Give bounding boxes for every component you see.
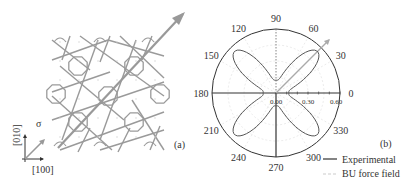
lattice-site [97, 79, 98, 80]
lattice-site [154, 136, 155, 137]
lattice-site [135, 98, 136, 99]
lattice-site [78, 98, 79, 99]
lattice-bond [52, 40, 90, 70]
lattice-site [78, 79, 79, 80]
lattice-site [135, 136, 136, 137]
figure: [100] [010] σ (a) 0306090120150180210240… [0, 0, 412, 186]
angular-tick-label: 60 [308, 23, 318, 34]
angular-tick-label: 330 [333, 125, 348, 136]
panel-b-polar-chart: 03060901201501802102402703003300.000.300… [194, 13, 400, 179]
panel-a-label: (a) [174, 139, 185, 151]
lattice-site [116, 41, 117, 42]
lattice-site [116, 117, 117, 118]
lattice-site [154, 60, 155, 61]
lattice-site [78, 60, 79, 61]
angular-tick-label: 120 [231, 23, 246, 34]
legend-label-bu-force-field: BU force field [342, 168, 400, 179]
lattice-site [97, 117, 98, 118]
panel-a-lattice: [100] [010] σ (a) [11, 12, 185, 175]
lattice-bond [118, 128, 130, 152]
lattice-site [135, 79, 136, 80]
angular-tick-label: 30 [336, 50, 346, 61]
lattice-site [78, 41, 79, 42]
lattice-site [97, 98, 98, 99]
lattice-site [135, 41, 136, 42]
lattice-ring [125, 113, 143, 131]
angular-grid-spoke [244, 38, 276, 93]
crystal-axes: [100] [010] σ [11, 118, 54, 175]
lattice-site [116, 98, 117, 99]
axis-y-arrowhead [23, 134, 27, 138]
axis-y-label: [010] [11, 124, 22, 146]
lattice-site [154, 98, 155, 99]
lattice-site [59, 41, 60, 42]
angular-tick-label: 0 [348, 88, 353, 99]
axis-x-arrowhead [40, 157, 44, 161]
angular-tick-label: 210 [204, 125, 219, 136]
lattice-site [59, 60, 60, 61]
lattice-site [135, 117, 136, 118]
angular-tick-label: 150 [204, 50, 219, 61]
axis-sigma-arrow [25, 141, 43, 159]
legend: Experimental BU force field [323, 154, 400, 179]
lattice-site [59, 117, 60, 118]
lattice-site [59, 136, 60, 137]
stress-sigma-label: σ [36, 118, 42, 129]
lattice-site [154, 117, 155, 118]
lattice-bond [52, 82, 164, 120]
radial-tick-label: 0.00 [270, 98, 283, 106]
legend-label-experimental: Experimental [342, 154, 396, 165]
axis-x-label: [100] [32, 164, 54, 175]
lattice-site [59, 79, 60, 80]
lattice-arc [142, 38, 154, 42]
polar-axes [212, 29, 340, 157]
lattice-site [116, 136, 117, 137]
lattice-site [97, 60, 98, 61]
lattice-ring [69, 113, 87, 131]
radial-tick-label: 0.30 [302, 98, 315, 106]
stress-direction-arrow [276, 40, 329, 93]
angular-tick-label: 270 [269, 162, 284, 173]
panel-b-label: (b) [380, 138, 392, 150]
angular-grid-spoke [221, 61, 276, 93]
angular-tick-label: 240 [231, 152, 246, 163]
lattice-site [116, 60, 117, 61]
angular-tick-label: 180 [194, 88, 209, 99]
lattice-site [78, 117, 79, 118]
lattice-site [97, 41, 98, 42]
lattice-site [78, 136, 79, 137]
lattice-arc [144, 142, 156, 146]
angular-tick-label: 90 [271, 13, 281, 24]
lattice-site [59, 98, 60, 99]
angular-tick-label: 300 [306, 152, 321, 163]
lattice-site [154, 79, 155, 80]
angular-grid-spoke [221, 93, 276, 125]
lattice-site [116, 79, 117, 80]
radial-tick-label: 0.60 [330, 98, 343, 106]
lattice-bond [100, 36, 110, 62]
lattice-site [135, 60, 136, 61]
lattice-site [97, 136, 98, 137]
